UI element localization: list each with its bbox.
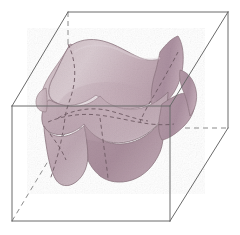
figure-container: Triply periodic minimal surface inside a… xyxy=(0,0,240,235)
surface-left-flare-tip xyxy=(36,88,47,112)
minimal-surface-figure xyxy=(0,0,240,235)
edge-bottom-right-depth xyxy=(170,128,228,221)
minimal-surface-group xyxy=(36,36,197,186)
